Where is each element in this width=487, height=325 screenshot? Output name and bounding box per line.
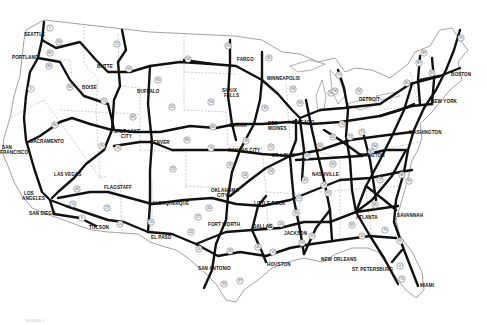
svg-text:75: 75 <box>400 277 404 281</box>
city-label: FLAGSTAFF <box>104 185 132 190</box>
interstate-shield-icon: 25 <box>170 166 176 172</box>
interstate-shield-icon: 15 <box>114 41 120 47</box>
svg-text:40: 40 <box>331 162 335 166</box>
city-label: ALBUQUERQUE <box>152 201 189 206</box>
city-label: FARGO <box>237 57 254 62</box>
interstate-shield-icon: 35 <box>221 281 227 287</box>
interstate-shield-icon: 75 <box>347 134 353 140</box>
interstate-shield-icon: 5 <box>47 25 53 31</box>
interstate-shield-icon: 90 <box>208 99 214 105</box>
interstate-shield-icon: 55 <box>309 233 315 239</box>
interstate-shield-icon: 80 <box>210 124 216 130</box>
svg-text:15: 15 <box>100 144 104 148</box>
interstate-shield-icon: 29 <box>225 43 231 49</box>
interstate-shield-icon: 75 <box>399 276 405 282</box>
interstate-shield-icon: 95 <box>397 238 403 244</box>
svg-text:80: 80 <box>131 115 135 119</box>
city-label: FRANCISCO <box>0 150 29 155</box>
interstate-shield-icon: 40 <box>74 186 80 192</box>
svg-text:70: 70 <box>340 122 344 126</box>
svg-text:55: 55 <box>297 196 301 200</box>
city-label: BOISE <box>82 85 97 90</box>
city-label: FORT WORTH <box>208 222 241 227</box>
city-label: JACKSON <box>284 231 308 236</box>
svg-text:94: 94 <box>291 87 295 91</box>
svg-text:10: 10 <box>271 250 275 254</box>
city-label: BOSTON <box>451 72 472 77</box>
city-label: TUCSON <box>89 225 110 230</box>
interstate-shield-icon: 75 <box>336 72 342 78</box>
svg-text:25: 25 <box>149 220 153 224</box>
city-label: LEXINGTON <box>357 153 385 158</box>
svg-text:77: 77 <box>378 178 382 182</box>
svg-text:10: 10 <box>360 234 364 238</box>
interstate-shield-icon: 65 <box>349 222 355 228</box>
interstate-shield-icon: 8 <box>79 215 85 221</box>
interstate-shield-icon: 35 <box>266 55 272 61</box>
svg-text:80: 80 <box>185 138 189 142</box>
interstate-shield-icon: 75 <box>382 227 388 233</box>
svg-text:85: 85 <box>373 203 377 207</box>
city-label: NASHVILLE <box>312 172 339 177</box>
svg-text:5: 5 <box>49 26 51 30</box>
city-label: BUFFALO <box>137 89 160 94</box>
svg-text:94: 94 <box>186 57 190 61</box>
interstate-shield-icon: 10 <box>270 249 276 255</box>
svg-text:80: 80 <box>68 85 72 89</box>
svg-text:25: 25 <box>170 105 174 109</box>
svg-text:90: 90 <box>209 100 213 104</box>
svg-text:65: 65 <box>350 223 354 227</box>
us-interstate-map: 5908284159058015299490359490259035759490… <box>0 0 487 325</box>
city-label: FALLS <box>224 93 239 98</box>
svg-text:65: 65 <box>331 135 335 139</box>
interstate-shield-icon: 10 <box>359 233 365 239</box>
city-label: MOINES <box>268 126 287 131</box>
svg-text:70: 70 <box>209 146 213 150</box>
svg-text:15: 15 <box>102 99 106 103</box>
svg-text:71: 71 <box>360 130 364 134</box>
city-label: ANGELES <box>22 196 45 201</box>
interstate-shield-icon: 80 <box>130 114 136 120</box>
interstate-shield-icon: 81 <box>404 80 410 86</box>
interstate-shield-icon: 94 <box>356 88 362 94</box>
interstate-shield-icon: 35 <box>227 162 233 168</box>
svg-text:35: 35 <box>267 56 271 60</box>
interstate-shield-icon: 59 <box>299 240 305 246</box>
svg-text:20: 20 <box>279 222 283 226</box>
svg-text:81: 81 <box>405 81 409 85</box>
interstate-shield-icon: 10 <box>196 246 202 252</box>
city-label: DALLAS <box>253 224 272 229</box>
svg-text:91: 91 <box>430 71 434 75</box>
city-label: SAN DIEGO <box>29 211 56 216</box>
svg-text:8: 8 <box>81 216 83 220</box>
city-label: SACRAMENTO <box>30 139 64 144</box>
interstate-shield-icon: 40 <box>302 177 308 183</box>
svg-text:27: 27 <box>196 215 200 219</box>
svg-text:90: 90 <box>127 67 131 71</box>
svg-text:87: 87 <box>417 61 421 65</box>
svg-text:94: 94 <box>357 89 361 93</box>
svg-text:95: 95 <box>459 36 463 40</box>
city-label: CITY <box>121 134 132 139</box>
interstate-shield-icon: 4 <box>397 263 403 269</box>
svg-text:17: 17 <box>105 206 109 210</box>
city-label: CHICAGO <box>292 120 315 125</box>
svg-text:84: 84 <box>47 64 51 68</box>
interstate-shield-icon: 20 <box>188 229 194 235</box>
svg-text:80: 80 <box>53 123 57 127</box>
interstate-shield-icon: 91 <box>429 70 435 76</box>
interstate-shield-icon: 90 <box>297 100 303 106</box>
city-label: NEW YORK <box>431 99 458 104</box>
interstate-shield-icon: 90 <box>155 77 161 83</box>
interstate-shield-icon: 94 <box>185 56 191 62</box>
svg-text:15: 15 <box>115 42 119 46</box>
svg-text:59: 59 <box>300 241 304 245</box>
interstate-shield-icon: 85 <box>399 172 405 178</box>
city-label: NEW ORLEANS <box>321 257 357 262</box>
city-label: WASHINGTON <box>409 130 442 135</box>
svg-text:40: 40 <box>75 187 79 191</box>
svg-text:10: 10 <box>71 202 75 206</box>
interstate-shield-icon: 64 <box>317 143 323 149</box>
svg-text:24: 24 <box>322 183 326 187</box>
interstate-shield-icon: 24 <box>321 182 327 188</box>
